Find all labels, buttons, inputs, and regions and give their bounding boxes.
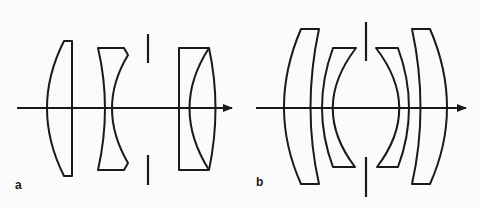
panel-label-b: b	[256, 176, 263, 188]
panel-b	[256, 22, 466, 197]
outer-right-meniscus	[412, 29, 447, 184]
lens-diagram-figure: a b	[0, 0, 481, 209]
lens-diagram-svg	[0, 0, 481, 209]
panel-label-a: a	[15, 179, 22, 191]
panel-a	[17, 34, 232, 185]
outer-left-meniscus	[284, 29, 319, 184]
